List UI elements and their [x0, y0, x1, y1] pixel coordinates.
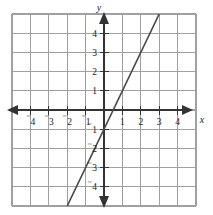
y-tick-label-pos1: 1: [92, 86, 97, 96]
y-tick-label-neg1: ⁻1: [87, 121, 97, 134]
axes: [7, 12, 193, 208]
coordinate-graph-svg: ⁻4 ⁻3 ⁻2 ⁻1 1 2 3 4 4 3 2 1 ⁻1 ⁻2 ⁻3 ⁻4 …: [0, 0, 213, 215]
x-tick-label-pos1: 1: [120, 117, 125, 127]
y-tick-label-neg3: ⁻3: [87, 160, 97, 173]
x-tick-label-neg3: ⁻3: [44, 113, 54, 126]
x-tick-label-neg4: ⁻4: [26, 113, 36, 126]
coordinate-graph-figure: ⁻4 ⁻3 ⁻2 ⁻1 1 2 3 4 4 3 2 1 ⁻1 ⁻2 ⁻3 ⁻4 …: [0, 0, 213, 215]
x-tick-label-pos3: 3: [157, 117, 162, 127]
y-tick-label-neg2: ⁻2: [87, 141, 97, 154]
y-tick-label-pos2: 2: [92, 67, 97, 77]
x-axis-label: x: [199, 114, 205, 125]
y-tick-label-neg4: ⁻4: [87, 179, 97, 192]
y-tick-label-pos4: 4: [92, 29, 97, 39]
x-tick-label-pos2: 2: [138, 117, 143, 127]
x-axis-arrow-right: [182, 105, 193, 115]
y-axis-label: y: [96, 2, 102, 13]
x-tick-label-neg2: ⁻2: [62, 113, 72, 126]
y-tick-label-pos3: 3: [92, 48, 97, 58]
x-tick-label-pos4: 4: [175, 117, 180, 127]
